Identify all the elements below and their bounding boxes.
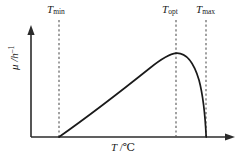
y-axis-unit-exponent: –1 [7,46,16,54]
y-axis-variable: μ [8,65,20,71]
annotation-label-topt: Topt [162,4,178,16]
y-axis [27,25,34,137]
annotation-label-tmin: Tmin [47,4,65,16]
tmax-subscript: max [202,7,215,16]
x-axis-label: T /℃ [88,142,158,153]
chart-canvas [0,0,242,160]
x-axis-arrowhead [225,133,235,140]
growth-rate-temperature-chart: Tmin Topt Tmax μ /h–1 T /℃ [0,0,242,160]
y-axis-label: μ /h–1 [8,30,20,86]
growth-rate-curve [59,53,206,137]
annotation-label-tmax: Tmax [196,4,215,16]
y-axis-arrowhead [27,25,34,35]
tmin-subscript: min [53,7,65,16]
x-axis-unit: /℃ [120,141,135,153]
y-axis-unit: /h [8,53,20,62]
topt-subscript: opt [168,7,178,16]
